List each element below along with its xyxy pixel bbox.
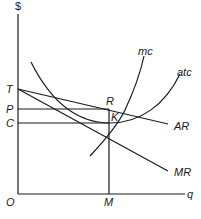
x-axis-label: q [187,188,194,200]
mc-curve [90,56,144,156]
label-t: T [6,83,14,95]
y-axis-label: $ [15,0,21,12]
ar-label: AR [173,120,189,132]
atc-label: atc [177,66,192,78]
mr-curve [18,89,168,171]
point-k-label: K [111,111,119,123]
mr-label: MR [174,166,191,178]
label-m: M [104,196,114,208]
origin-label: O [6,196,15,208]
label-c: C [6,117,14,129]
ar-curve [18,89,168,124]
atc-curve [31,62,180,123]
economics-diagram: $ q O T P C M R K mc atc AR MR [0,0,201,219]
mc-label: mc [138,45,153,57]
point-r-label: R [106,95,114,107]
label-p: P [6,103,14,115]
